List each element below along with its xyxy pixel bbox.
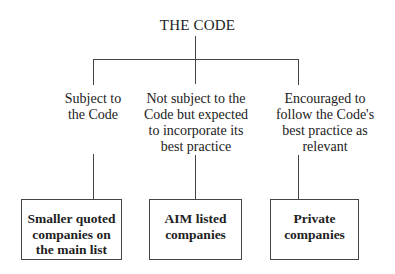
connector-left-drop — [93, 59, 94, 85]
box-line: Private — [284, 211, 345, 227]
condition-line: follow the Code's — [262, 107, 388, 123]
connector-horizontal-bar — [93, 59, 299, 60]
condition-line: Code but expected — [135, 107, 257, 123]
connector-middle-to-box — [195, 155, 196, 200]
diagram-title: THE CODE — [0, 17, 395, 34]
condition-line: Encouraged to — [262, 91, 388, 107]
connector-right-drop — [298, 59, 299, 85]
condition-line: to incorporate its — [135, 123, 257, 139]
condition-line: relevant — [262, 139, 388, 155]
box-line: Smaller quoted — [28, 211, 116, 227]
condition-line: Not subject to the — [135, 91, 257, 107]
box-private-companies: Private companies — [270, 199, 359, 260]
box-line: companies — [284, 227, 345, 243]
condition-label-not-subject: Not subject to the Code but expected to … — [135, 91, 257, 155]
box-line: AIM listed — [165, 211, 227, 227]
box-smaller-quoted-companies: Smaller quoted companies on the main lis… — [21, 199, 122, 260]
box-line: the main list — [28, 242, 116, 258]
box-aim-listed-companies: AIM listed companies — [149, 199, 242, 260]
condition-line: best practice — [135, 139, 257, 155]
connector-title-stem — [195, 36, 196, 84]
connector-right-to-box — [298, 155, 299, 200]
condition-line: best practice as — [262, 123, 388, 139]
box-line: companies on — [28, 227, 116, 243]
connector-left-to-box — [93, 154, 94, 200]
condition-label-encouraged: Encouraged to follow the Code's best pra… — [262, 91, 388, 155]
box-line: companies — [165, 227, 227, 243]
